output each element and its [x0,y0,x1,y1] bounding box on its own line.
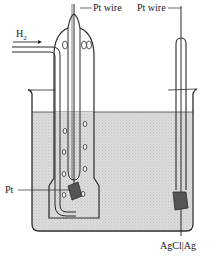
pt-wire-label-right: Pt wire [137,3,166,13]
agcl-ag-label: AgCl|Ag [160,241,196,251]
diagram-drawing [0,0,219,256]
h2-subscript: 2 [23,34,27,42]
pt-wire-label-left: Pt wire [93,3,122,13]
pt-electrode-label: Pt [5,185,13,195]
hydrogen-gas-label: H2 [16,29,27,42]
electrochemical-cell-diagram: Pt wire Pt wire H2 Pt AgCl|Ag [0,0,219,256]
